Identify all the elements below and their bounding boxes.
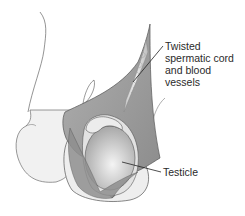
label-testicle: Testicle (163, 166, 198, 178)
label-twisted-spermatic-cord: Twisted spermatic cord and blood vessels (165, 40, 234, 88)
body-outline (28, 12, 46, 112)
label-line: Twisted (165, 40, 234, 52)
label-line: vessels (165, 76, 234, 88)
label-line: spermatic cord (165, 52, 234, 64)
label-line: Testicle (163, 166, 198, 178)
label-line: and blood (165, 64, 234, 76)
testicular-torsion-diagram (0, 0, 245, 216)
